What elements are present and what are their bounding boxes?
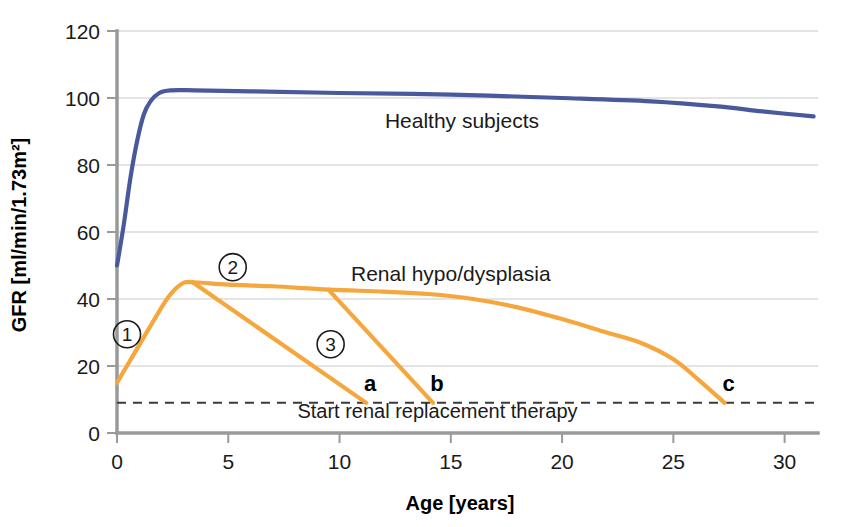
y-tick-label-100: 100	[65, 87, 100, 110]
y-tick-label-80: 80	[77, 154, 100, 177]
endpoint-marker-b: b	[430, 371, 443, 396]
x-tick-label-10: 10	[328, 450, 351, 473]
axes-group	[107, 31, 818, 443]
threshold-label: Start renal replacement therapy	[297, 400, 577, 422]
y-tick-label-60: 60	[77, 221, 100, 244]
series-label-renal: Renal hypo/dysplasia	[351, 262, 551, 285]
endpoint-marker-a: a	[364, 371, 377, 396]
data-series-group	[117, 90, 814, 403]
gfr-age-chart: 020406080100120 051015202530 GFR [ml/min…	[0, 0, 842, 527]
branch-lines-group	[193, 282, 433, 403]
chart-page: 020406080100120 051015202530 GFR [ml/min…	[0, 0, 842, 527]
series-label-healthy: Healthy subjects	[385, 109, 539, 132]
y-tick-label-40: 40	[77, 288, 100, 311]
y-tick-label-20: 20	[77, 355, 100, 378]
x-tick-label-0: 0	[111, 450, 123, 473]
circled-one-label: 1	[122, 324, 133, 345]
y-axis-title: GFR [ml/min/1.73m²]	[8, 138, 30, 332]
y-tick-label-0: 0	[88, 422, 100, 445]
x-tick-label-30: 30	[773, 450, 796, 473]
circled-three-label: 3	[325, 334, 336, 355]
circled-two-label: 2	[227, 257, 238, 278]
gridlines-group	[117, 31, 818, 366]
x-tick-label-15: 15	[439, 450, 462, 473]
x-tick-label-25: 25	[662, 450, 685, 473]
series-line-renal	[117, 282, 725, 403]
threshold-label-group: Start renal replacement therapy	[297, 400, 577, 422]
x-tick-labels-group: 051015202530	[111, 450, 796, 473]
y-tick-labels-group: 020406080100120	[65, 20, 100, 445]
series-labels-group: Healthy subjectsRenal hypo/dysplasia	[351, 109, 551, 284]
endpoint-marker-c: c	[722, 371, 734, 396]
x-axis-title: Age [years]	[406, 492, 515, 514]
x-tick-label-20: 20	[550, 450, 573, 473]
endpoint-markers-group: abc	[364, 371, 735, 396]
y-tick-label-120: 120	[65, 20, 100, 43]
x-tick-label-5: 5	[222, 450, 234, 473]
